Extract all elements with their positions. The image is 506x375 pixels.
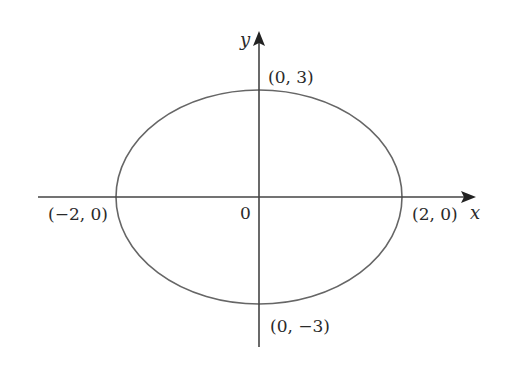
point-label-left: (−2, 0) (48, 204, 108, 224)
ellipse-diagram: y x 0 (0, 3) (−2, 0) (2, 0) (0, −3) (0, 0, 506, 375)
point-label-bottom: (0, −3) (270, 316, 330, 336)
origin-label: 0 (240, 203, 251, 223)
y-axis-label: y (239, 29, 251, 50)
point-label-top: (0, 3) (268, 67, 314, 87)
point-label-right: (2, 0) (412, 204, 458, 224)
x-axis-label: x (470, 202, 480, 223)
